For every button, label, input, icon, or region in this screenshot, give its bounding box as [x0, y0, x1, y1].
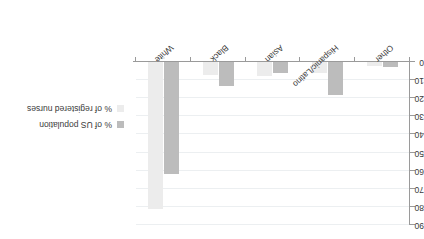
bar: [274, 62, 289, 73]
y-axis-tick-label: 50: [415, 149, 424, 158]
bar-group: [203, 62, 234, 225]
bars-layer: [136, 62, 410, 225]
y-axis-tick-label: 20: [415, 94, 424, 103]
legend-item[interactable]: % of US population: [39, 120, 124, 129]
y-axis-tick-label: 80: [415, 203, 424, 212]
legend-label: % of registered nurses: [27, 104, 112, 113]
x-axis-tick: [354, 57, 355, 61]
bar: [328, 62, 343, 95]
y-axis-tick-label: 0: [419, 58, 424, 67]
x-axis-tick: [135, 57, 136, 61]
y-axis-tick-label: 40: [415, 130, 424, 139]
chart-canvas: 0102030405060708090 OtherHispanic/Latino…: [0, 0, 424, 239]
legend-label: % of US population: [39, 120, 112, 129]
y-axis-tick-label: 90: [415, 221, 424, 230]
legend-item[interactable]: % of registered nurses: [27, 104, 124, 113]
chart-figure: 0102030405060708090 OtherHispanic/Latino…: [0, 0, 424, 239]
x-axis-tick: [190, 57, 191, 61]
y-axis-line: [409, 61, 410, 225]
x-axis-tick: [245, 57, 246, 61]
x-axis-tick: [409, 57, 410, 61]
y-axis-tick-label: 10: [415, 76, 424, 85]
bar: [219, 62, 234, 86]
bar-group: [258, 62, 289, 225]
bar: [164, 62, 179, 174]
y-axis-tick-label: 70: [415, 185, 424, 194]
bar: [383, 62, 398, 67]
bar-group: [148, 62, 179, 225]
y-axis-tick-label: 60: [415, 167, 424, 176]
y-axis-tick: [410, 61, 415, 62]
y-axis-tick-label: 30: [415, 112, 424, 121]
x-axis-tick: [299, 57, 300, 61]
bar-group: [367, 62, 398, 225]
bar: [148, 62, 163, 209]
bar-group: [312, 62, 343, 225]
legend-swatch: [117, 121, 124, 128]
legend-swatch: [117, 105, 124, 112]
